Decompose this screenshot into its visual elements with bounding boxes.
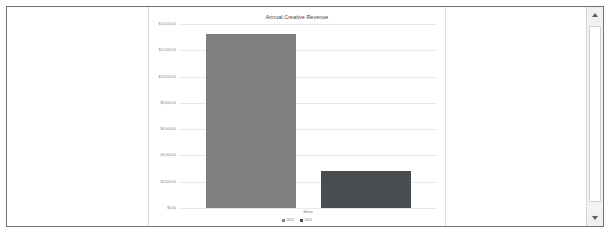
legend-swatch-icon [300,219,303,222]
chart-legend: 20222021 [149,218,445,222]
gridline [179,208,437,209]
plot-area: $14,000.00$12,000.00$10,000.00$8,000.00$… [179,24,437,208]
y-axis-tick-label: $12,000.00 [159,48,176,52]
y-axis-tick-label: $2,000.00 [160,180,176,184]
legend-label: 2022 [286,218,294,222]
chevron-up-icon [592,13,598,17]
bar-2021[interactable] [321,171,411,208]
vertical-scrollbar[interactable] [586,7,603,226]
legend-item[interactable]: 2022 [282,218,294,222]
legend-swatch-icon [282,219,285,222]
y-axis-tick-label: $8,000.00 [160,101,176,105]
y-axis-tick-label: $6,000.00 [160,127,176,131]
chevron-down-icon [592,216,598,220]
scrollbar-thumb[interactable] [589,26,601,202]
scroll-up-button[interactable] [587,7,603,23]
legend-item[interactable]: 2021 [300,218,312,222]
document-canvas: Annual Creative Revenue $14,000.00$12,00… [7,7,586,226]
y-axis-tick-label: $0.00 [167,206,176,210]
chart-title: Annual Creative Revenue [149,14,445,20]
legend-label: 2021 [305,218,313,222]
scroll-down-button[interactable] [587,210,603,226]
y-axis-tick-label: $4,000.00 [160,153,176,157]
y-axis-tick-label: $14,000.00 [159,22,176,26]
bars-group [179,24,437,208]
y-axis-tick-label: $10,000.00 [159,75,176,79]
bar-2022[interactable] [206,34,296,208]
window-frame: Annual Creative Revenue $14,000.00$12,00… [6,6,604,227]
chart-panel[interactable]: Annual Creative Revenue $14,000.00$12,00… [148,7,446,226]
x-axis-label: Series [179,210,437,214]
